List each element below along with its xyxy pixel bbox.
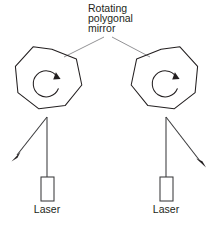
annotation-line-3: mirror xyxy=(88,22,116,34)
laser-box-left xyxy=(41,177,54,201)
laser-beam-arrowhead-left xyxy=(12,152,21,162)
assembly-right: Laser xyxy=(131,47,206,215)
polygonal-mirror-left xyxy=(15,47,81,109)
rotation-arrow-arc-right xyxy=(152,71,177,97)
laser-box-right xyxy=(160,177,173,201)
assembly-left: Laser xyxy=(12,47,82,215)
laser-label-right: Laser xyxy=(153,203,180,215)
laser-beam-right xyxy=(166,117,200,161)
leader-to-right-mirror xyxy=(112,37,150,57)
diagram-canvas: Rotating polygonal mirror Laser xyxy=(0,0,219,228)
laser-label-left: Laser xyxy=(34,203,61,215)
laser-beam-arrowhead-right xyxy=(196,158,206,167)
leader-to-left-mirror xyxy=(64,37,104,57)
rotating-polygonal-mirror-diagram: Rotating polygonal mirror Laser xyxy=(0,0,219,228)
polygonal-mirror-right xyxy=(131,47,197,109)
laser-beam-left xyxy=(17,117,47,155)
rotation-arrow-arc-left xyxy=(33,71,58,97)
